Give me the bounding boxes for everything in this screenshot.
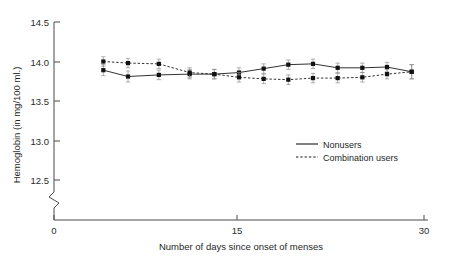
data-point-marker <box>286 63 290 67</box>
data-point-marker <box>385 65 389 69</box>
y-tick-label-3: 14.0 <box>31 57 50 68</box>
y-tick-label-1: 13.0 <box>31 136 50 147</box>
series-combination-users <box>101 57 414 85</box>
x-tick-label-1: 15 <box>232 225 243 236</box>
data-point-marker <box>157 73 161 77</box>
y-axis-title: Hemoglobin (in mg/100 ml.) <box>11 67 22 184</box>
data-point-marker <box>212 72 216 76</box>
y-axis: 14.5 14.0 13.5 13.0 12.5 Hemoglobin (in … <box>11 17 60 221</box>
x-axis-title: Number of days since onset of menses <box>159 241 323 252</box>
data-point-marker <box>410 70 414 74</box>
data-point-marker <box>311 76 315 80</box>
y-tick-marks <box>54 22 60 180</box>
data-point-marker <box>385 72 389 76</box>
plot-area <box>101 57 414 85</box>
y-axis-break-icon <box>49 186 59 220</box>
data-point-marker <box>336 76 340 80</box>
data-point-marker <box>336 66 340 70</box>
chart-legend: Nonusers Combination users <box>290 136 410 163</box>
data-point-marker <box>188 70 192 74</box>
hemoglobin-line-chart: 14.5 14.0 13.5 13.0 12.5 Hemoglobin (in … <box>0 0 450 266</box>
x-tick-label-2: 30 <box>419 225 430 236</box>
series-line-0 <box>103 64 411 77</box>
data-point-marker <box>360 75 364 79</box>
data-point-marker <box>311 62 315 66</box>
error-bars-1 <box>101 57 414 85</box>
data-point-marker <box>237 75 241 79</box>
chart-canvas: 14.5 14.0 13.5 13.0 12.5 Hemoglobin (in … <box>0 0 450 266</box>
x-axis: 0 15 30 Number of days since onset of me… <box>51 215 429 252</box>
y-tick-label-4: 14.5 <box>31 17 50 28</box>
data-point-marker <box>262 67 266 71</box>
x-tick-marks <box>54 215 424 220</box>
legend-label-combination-users: Combination users <box>323 153 399 163</box>
data-point-marker <box>101 59 105 63</box>
x-tick-label-0: 0 <box>51 225 56 236</box>
data-point-marker <box>101 68 105 72</box>
data-point-marker <box>360 66 364 70</box>
data-point-marker <box>262 77 266 81</box>
data-point-marker <box>126 74 130 78</box>
y-tick-label-0: 12.5 <box>31 175 50 186</box>
data-point-marker <box>157 62 161 66</box>
data-point-marker <box>126 61 130 65</box>
series-line-1 <box>103 62 411 80</box>
data-point-marker <box>286 78 290 82</box>
legend-label-nonusers: Nonusers <box>323 140 362 150</box>
series-markers-0 <box>101 62 414 79</box>
y-tick-label-2: 13.5 <box>31 96 50 107</box>
